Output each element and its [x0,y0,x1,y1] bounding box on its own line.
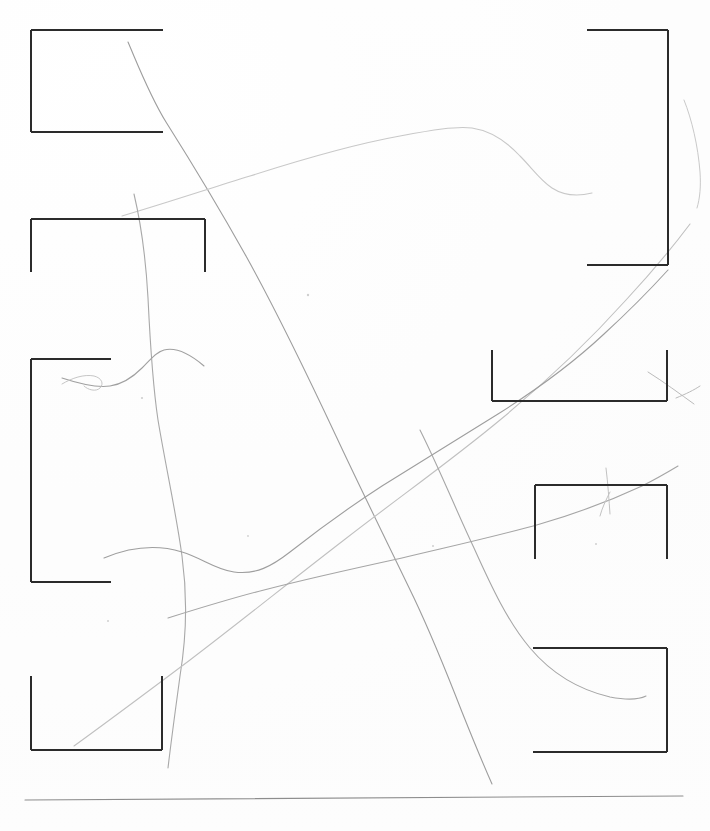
stroke-lower-right-tick [600,468,610,516]
stroke-long-diagonal [128,42,492,784]
scanned-page [0,0,710,831]
bracket-lower-right [535,485,667,559]
speck-6 [247,535,249,537]
pencil-stroke-layer [62,42,700,784]
stroke-right-bracket-wisp [648,372,700,404]
page-artwork [0,0,710,831]
bracket-top-left [31,30,163,132]
speck-2 [141,397,143,399]
speck-5 [595,543,597,545]
stroke-mid-left-wave [104,270,668,573]
speck-3 [432,545,434,547]
rule-layer [25,796,683,800]
speck-4 [107,620,109,622]
stroke-right-edge-wisp [684,100,700,208]
stroke-bottom-right-hook [420,430,646,699]
speck-1 [307,294,309,296]
stroke-near-vertical [134,194,186,768]
stroke-lower-sweep [62,349,204,386]
stroke-lower-right-sweep [168,466,678,618]
bracket-layer [31,30,668,752]
bracket-bottom-right [533,648,667,752]
bracket-top-right [587,30,668,265]
bracket-upper-left [31,219,205,272]
stroke-short-left-hook [62,375,102,390]
bracket-mid-left [31,359,111,582]
bottom-horizontal-rule [25,796,683,800]
stroke-top-hump [122,127,592,216]
bracket-mid-right [492,350,667,401]
speck-layer [107,294,597,622]
bracket-bottom-left [31,676,162,750]
